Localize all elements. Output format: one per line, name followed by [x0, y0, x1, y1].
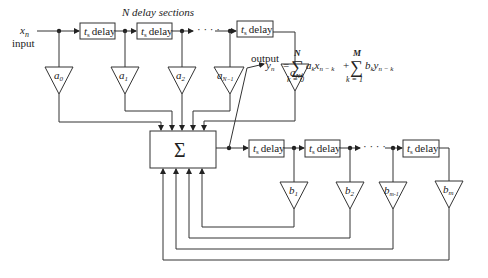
svg-text:bkyn − k: bkyn − k — [365, 59, 394, 73]
svg-text:∑: ∑ — [350, 57, 363, 77]
gain-bm: bm — [435, 181, 463, 208]
feedback-chain: tsdelay tsdelay · · · · tsdelay — [249, 140, 449, 182]
summer-block: Σ — [150, 131, 216, 168]
gain-bm-1: bm-1 — [379, 182, 407, 209]
iir-filter-block-diagram: N delay sections xn input tsdelay tsdela… — [0, 0, 488, 278]
sections-title: N delay sections — [121, 6, 194, 18]
svg-text:∑: ∑ — [291, 57, 304, 77]
delay-block: tsdelay — [305, 140, 341, 157]
svg-text:Σ: Σ — [174, 139, 186, 161]
gain-aN-1: aN−1 — [214, 67, 244, 94]
gain-a2: a2 — [168, 67, 196, 94]
svg-text:input: input — [12, 37, 35, 49]
gain-b1: b1 — [280, 182, 308, 209]
svg-text:+: + — [343, 59, 349, 71]
svg-text:k = 1: k = 1 — [346, 75, 363, 84]
difference-equation: yn = N ∑ k = 0 akxn − k + M ∑ k = 1 bkyn… — [265, 48, 394, 84]
delay-block: tsdelay — [249, 140, 285, 157]
delay-block: tsdelay — [80, 23, 116, 39]
input-label: xn input — [12, 24, 35, 49]
gain-a1: a1 — [111, 67, 139, 94]
delay-block: tsdelay — [237, 21, 273, 37]
svg-text:=: = — [283, 59, 289, 71]
gain-b2: b2 — [336, 182, 364, 209]
svg-text:k = 0: k = 0 — [287, 75, 304, 84]
delay-block: tsdelay — [403, 140, 439, 157]
gain-a0: a0 — [45, 67, 73, 94]
feedforward-routing — [59, 91, 295, 130]
ellipsis: · · · · — [363, 140, 386, 152]
delay-block: tsdelay — [137, 23, 173, 39]
ellipsis: · · · · — [197, 23, 220, 35]
svg-text:akxn − k: akxn − k — [306, 59, 335, 73]
